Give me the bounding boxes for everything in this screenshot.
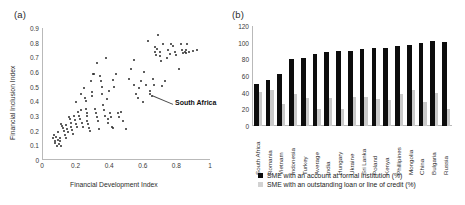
category-label-wrap: Poland: [370, 129, 382, 175]
scatter-point: [122, 120, 124, 122]
bar-group: India: [323, 26, 335, 126]
scatter-point: [178, 68, 180, 70]
bar-account: [324, 52, 329, 126]
scatter-point: [77, 111, 79, 113]
scatter-point: [125, 128, 127, 130]
y-axis-tick-label: 0: [35, 157, 39, 164]
scatter-point: [99, 75, 101, 77]
scatter-point: [62, 127, 64, 129]
scatter-point: [154, 51, 156, 53]
scatter-point: [147, 40, 149, 42]
scatter-point: [106, 98, 108, 100]
x-axis-category-label: Sri Lanka: [361, 129, 367, 175]
scatter-point: [185, 49, 187, 51]
scatter-point: [166, 57, 168, 59]
scatter-point: [89, 130, 91, 132]
legend-label-account: SME with an account at formal institutio…: [267, 172, 402, 179]
scatter-point: [133, 59, 135, 61]
x-axis-category-label: Kenya: [384, 129, 390, 175]
legend-swatch-light-icon: [258, 182, 263, 187]
scatter-point: [63, 130, 65, 132]
scatter-point: [109, 112, 111, 114]
category-label-wrap: Phillipines: [393, 129, 405, 175]
scatter-point: [140, 80, 142, 82]
bar-group: Bulgaria: [428, 26, 440, 126]
scatter-point: [186, 43, 188, 45]
scatter-point: [55, 136, 57, 138]
scatter-point: [95, 112, 97, 114]
x-axis-category-label: Poland: [372, 129, 378, 175]
bar-account: [254, 84, 259, 127]
scatter-point: [87, 123, 89, 125]
panel-a-scatter-chart: (a) 00.10.20.30.40.50.60.70.80.900.20.40…: [0, 0, 232, 205]
scatter-point: [161, 85, 163, 87]
y-axis-tick-label: 0: [245, 123, 249, 130]
scatter-point: [172, 45, 174, 47]
bar-group: Average: [311, 26, 323, 126]
scatter-point: [133, 84, 135, 86]
x-axis-category-label: Indonesia: [290, 129, 296, 175]
category-label-wrap: Kenya: [381, 129, 393, 175]
y-axis-line: [42, 28, 43, 160]
scatter-point: [152, 78, 154, 80]
scatter-point: [85, 100, 87, 102]
scatter-point: [88, 127, 90, 129]
scatter-point: [91, 95, 93, 97]
legend-item-account: SME with an account at formal institutio…: [258, 172, 416, 179]
legend: SME with an account at formal institutio…: [258, 172, 416, 190]
scatter-point: [145, 84, 147, 86]
legend-item-loan: SME with an outstanding loan or line of …: [258, 181, 416, 188]
panel-b-bar-chart: (b) 020406080100120South AfricaRomaniaVi…: [228, 0, 465, 205]
scatter-point: [98, 128, 100, 130]
x-axis-category-label: China: [419, 129, 425, 175]
x-axis-category-label: Average: [314, 129, 320, 175]
scatter-point: [108, 90, 110, 92]
category-label-wrap: India: [323, 129, 335, 175]
y-axis-tick-label: 0.1: [30, 142, 39, 149]
scatter-point: [52, 137, 54, 139]
scatter-point: [80, 93, 82, 95]
scatter-point: [96, 116, 98, 118]
scatter-point: [83, 87, 85, 89]
scatter-point: [115, 73, 117, 75]
scatter-point: [71, 129, 73, 131]
scatter-point: [101, 93, 103, 95]
scatter-point: [167, 49, 169, 51]
x-axis-category-label: Ukraine: [349, 129, 355, 175]
x-axis-title: Financial Development Index: [70, 181, 158, 188]
bar-account: [395, 46, 400, 126]
scatter-point: [112, 79, 114, 81]
category-label-wrap: Average: [311, 129, 323, 175]
scatter-point: [110, 116, 112, 118]
scatter-point: [64, 134, 66, 136]
scatter-point: [86, 120, 88, 122]
x-axis-category-label: Turkey: [302, 129, 308, 175]
scatter-point: [103, 109, 105, 111]
scatter-point: [135, 93, 137, 95]
bar-account: [289, 59, 294, 127]
scatter-point: [120, 111, 122, 113]
scatter-point: [112, 127, 114, 129]
x-axis-tick-label: 1: [208, 162, 212, 169]
scatter-point: [66, 128, 68, 130]
x-axis-tick-label: 0.6: [138, 162, 147, 169]
scatter-point: [94, 108, 96, 110]
scatter-point: [169, 53, 171, 55]
scatter-point: [180, 43, 182, 45]
bar-group: Vietnam: [276, 26, 288, 126]
bar-group: Russia: [440, 26, 452, 126]
x-axis-category-label: Phillipines: [396, 129, 402, 175]
scatter-point: [143, 71, 145, 73]
scatter-point: [72, 133, 74, 135]
bar-account: [313, 54, 318, 127]
scatter-point: [137, 97, 139, 99]
category-label-wrap: Romania: [264, 129, 276, 175]
scatter-point: [156, 48, 158, 50]
scatter-point: [57, 131, 59, 133]
bar-account: [348, 51, 353, 126]
scatter-point: [138, 87, 140, 89]
bar-group: Kenya: [381, 26, 393, 126]
scatter-point: [75, 101, 77, 103]
bar-group: South Africa: [252, 26, 264, 126]
scatter-point: [174, 51, 176, 53]
